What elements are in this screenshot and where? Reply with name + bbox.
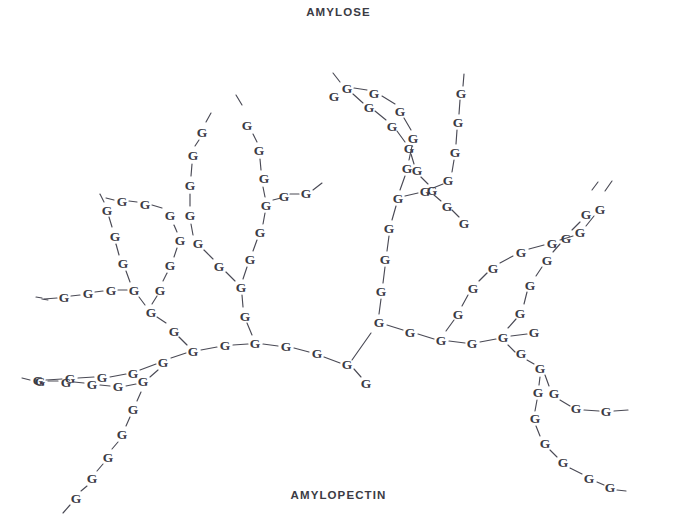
residue-g: G [581,207,592,222]
residue-g: G [242,118,253,133]
bond-ltip-end [44,298,57,299]
bond-backbone-9 [294,348,309,352]
residue-g: G [525,278,536,293]
residue-g: G [601,404,612,419]
residue-g: G [255,225,266,240]
bond-ltip-2 [95,291,103,292]
bond-lupb-6 [195,140,199,146]
bond-rlow-2 [527,360,534,364]
residue-g: G [342,357,353,372]
bond-rightarm-1 [379,299,381,314]
bond-rightarm-7 [404,118,411,130]
bond-rubranch-1 [353,94,363,103]
residue-g: G [361,376,372,391]
bond-ltail-2 [126,417,130,426]
residue-g: G [561,231,572,246]
residue-g: G [329,89,340,104]
residue-g: G [515,306,526,321]
bond-rtail-3 [536,426,540,436]
bond-rlow-4 [560,400,570,406]
residue-g: G [220,338,231,353]
bond-rmid-5 [529,245,544,249]
bond-llow-end [22,378,30,380]
bond-lup-1 [247,323,252,335]
bond-stub-left-mid [36,297,42,298]
bond-ltail-4 [97,464,103,471]
residue-g: G [467,336,478,351]
bond-rbranchb-end [463,74,464,86]
bond-mup-3 [253,134,257,142]
amylopectin-structure-diagram: G G G G G G G G G G G G G G G G G G G G … [0,0,677,522]
residue-g: G [102,203,113,218]
bond-lupb-5 [191,164,192,176]
residue-g: G [516,245,527,260]
residue-g: G [488,261,499,276]
bond-rmidb-3 [536,267,542,276]
bond-rbranchb-4 [456,130,457,144]
residue-g: G [530,411,541,426]
residue-g: G [169,324,180,339]
bond-rbranchb-1 [405,193,418,196]
bond-mup-2 [260,159,261,170]
residue-g: G [140,197,151,212]
residue-g: G [540,436,551,451]
bond-rmid-2 [462,295,468,306]
residue-g: G [128,402,139,417]
residue-g: G [529,325,540,340]
residue-g: G [175,233,186,248]
bond-rlow-1 [508,345,515,352]
bond-rightarm-5 [400,176,405,190]
residue-g: G [443,173,454,188]
residue-g: G [254,143,265,158]
bond-backbone-3 [110,374,126,377]
residue-g: G [158,355,169,370]
residue-g: G [83,286,94,301]
residue-g: G [106,283,117,298]
bond-rmidb-end [592,182,598,190]
residue-g: G [595,202,606,217]
residue-g-branch-point: G [535,361,546,376]
bond-rbranchb-3 [452,160,454,172]
amylopectin-title: AMYLOPECTIN [0,489,677,501]
bond-larm-6 [109,217,112,227]
residue-g: G [97,370,108,385]
residue-g: G [188,148,199,163]
bond-rtail-2 [535,400,537,411]
residue-g: G [571,401,582,416]
residue-g: G [155,283,166,298]
bond-llow-4 [74,382,84,383]
bond-center-right-3 [449,341,465,343]
bond-mup-end [236,95,242,105]
residue-g-branch-point: G [236,280,247,295]
residue-g: G [542,253,553,268]
bond-backbone-5 [171,353,186,358]
bond-lbu-4 [174,225,177,232]
bond-rmid-end [605,181,612,191]
residue-g: G [450,145,461,160]
residue-g: G [369,86,380,101]
bond-center-right-2 [418,334,434,339]
residue-g: G [533,385,544,400]
residue-g: G [188,344,199,359]
residue-g: G [214,259,225,274]
residue-g: G [259,171,270,186]
bond-rmid-4 [500,256,513,263]
bond-rmidb-2 [524,292,527,304]
residue-g-branch-point: G [498,330,509,345]
bond-rlow-end [614,410,628,411]
bond-llow-3 [100,385,110,386]
bond-lbu-5 [152,205,162,208]
residue-g: G [547,236,558,251]
residue-g: G [185,208,196,223]
bond-rlow-3 [545,375,549,386]
residue-g: G [387,119,398,134]
residue-g-branch-point: G [250,336,261,351]
residue-g: G [113,379,124,394]
bond-lbu-6 [129,201,137,202]
bond-rmid-3 [479,273,487,281]
bond-backbone-10 [324,357,340,363]
bond-larm-1 [179,337,187,345]
bond-rubranch-2 [375,111,386,120]
residue-g: G [118,256,129,271]
bond-lupb-end [206,113,211,122]
